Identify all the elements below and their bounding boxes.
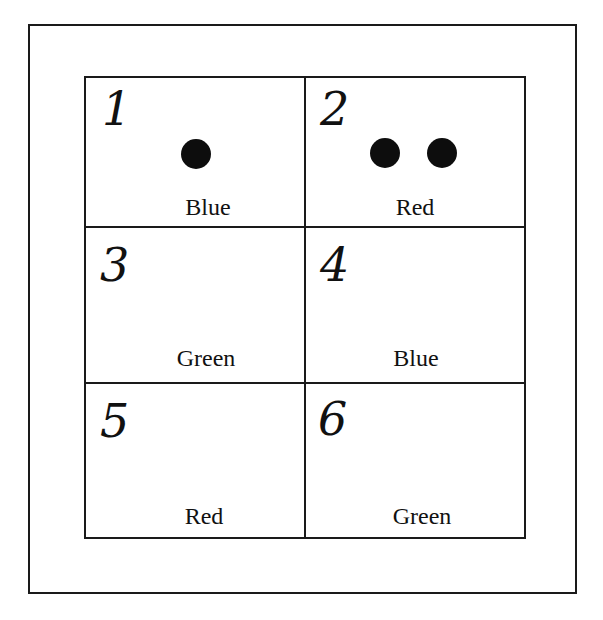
cell-label: Green <box>146 346 266 370</box>
cell-number: 6 <box>318 396 347 442</box>
grid-cell-2: 2 Red <box>306 78 524 227</box>
grid-cell-1: 1 Blue <box>86 78 305 227</box>
cell-number: 5 <box>100 398 129 444</box>
cell-label: Green <box>362 504 482 528</box>
cell-label: Blue <box>148 195 268 219</box>
grid-cell-4: 4 Blue <box>306 228 524 382</box>
grid-cell-6: 6 Green <box>306 384 524 537</box>
card-grid: 1 Blue 2 Red 3 Green 4 Blue 5 Red 6 Gree… <box>84 76 526 539</box>
cell-number: 2 <box>320 86 349 132</box>
cell-label: Red <box>355 195 475 219</box>
cell-label: Red <box>144 504 264 528</box>
cell-label: Blue <box>356 346 476 370</box>
grid-cell-5: 5 Red <box>86 384 305 537</box>
dot-icon <box>181 139 211 169</box>
grid-cell-3: 3 Green <box>86 228 305 382</box>
dot-icon <box>370 138 400 168</box>
cell-number: 1 <box>102 86 131 132</box>
dot-icon <box>427 138 457 168</box>
cell-number: 3 <box>100 242 129 288</box>
cell-number: 4 <box>320 242 349 288</box>
